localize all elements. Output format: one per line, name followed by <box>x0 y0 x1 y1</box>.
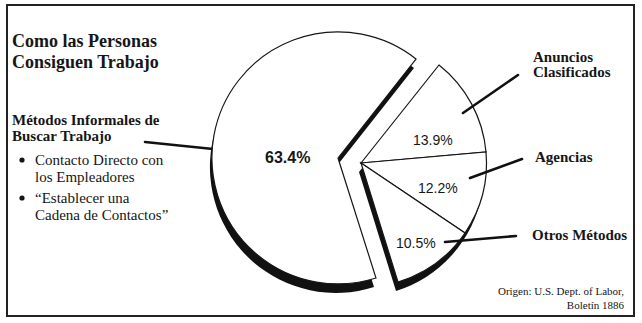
callout-agencias: Agencias <box>470 149 593 178</box>
bullet-1-line1: Contacto Directo con <box>35 152 164 168</box>
informales-heading-line1: Métodos Informales de <box>12 112 160 128</box>
callout-anuncios: Anuncios Clasificados <box>463 49 611 113</box>
chart-title-line2: Consiguen Trabajo <box>12 52 159 72</box>
callout-otros: Otros Métodos <box>445 227 627 243</box>
bullet-2-line1: “Establecer una <box>35 190 130 206</box>
label-anuncios-line2: Clasificados <box>533 64 611 80</box>
label-agencias: Agencias <box>535 149 593 165</box>
value-label-otros: 10.5% <box>396 235 436 251</box>
bullet-dot-icon <box>19 157 24 162</box>
chart-canvas: Como las Personas Consiguen Trabajo Méto… <box>0 0 642 323</box>
source-line1: Origen: U.S. Dept. of Labor, <box>498 285 624 297</box>
bullet-dot-icon <box>19 195 24 200</box>
leader-line-anuncios <box>463 75 518 113</box>
pie-chart-figure: Como las Personas Consiguen Trabajo Méto… <box>0 0 642 323</box>
label-anuncios-line1: Anuncios <box>533 49 593 65</box>
bullet-1-line2: los Empleadores <box>35 169 135 185</box>
chart-title: Como las Personas Consiguen Trabajo <box>12 31 159 72</box>
chart-title-line1: Como las Personas <box>12 31 157 51</box>
source-note: Origen: U.S. Dept. of Labor, Boletín 188… <box>498 285 625 311</box>
bullet-2-line2: Cadena de Contactos” <box>35 207 168 223</box>
value-label-informales: 63.4% <box>265 149 310 166</box>
label-otros: Otros Métodos <box>532 227 627 243</box>
value-label-agencias: 12.2% <box>418 180 458 196</box>
source-line2: Boletín 1886 <box>567 299 625 311</box>
informales-heading-line2: Buscar Trabajo <box>12 128 112 144</box>
value-label-anuncios: 13.9% <box>413 132 453 148</box>
